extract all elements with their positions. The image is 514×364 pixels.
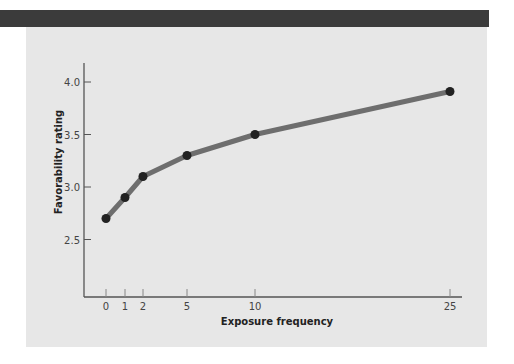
data-series xyxy=(102,87,455,223)
data-point-marker xyxy=(139,172,148,181)
x-tick-label: 10 xyxy=(249,301,262,312)
data-point-marker xyxy=(446,87,455,96)
x-tick-label: 25 xyxy=(444,301,457,312)
data-point-marker xyxy=(183,151,192,160)
x-tick-label: 5 xyxy=(184,301,190,312)
x-tick-label: 0 xyxy=(103,301,109,312)
series-line xyxy=(106,91,450,218)
y-tick-label: 4.0 xyxy=(64,77,80,88)
data-point-marker xyxy=(251,130,260,139)
data-point-marker xyxy=(121,193,130,202)
data-point-marker xyxy=(102,214,111,223)
x-tick-label: 2 xyxy=(140,301,146,312)
y-axis-title: Favorability rating xyxy=(53,110,64,214)
x-axis-title: Exposure frequency xyxy=(221,316,334,327)
y-tick-label: 2.5 xyxy=(64,235,80,246)
line-chart: 2.53.03.54.0 01251025 Favorability ratin… xyxy=(0,0,514,364)
y-axis-ticks: 2.53.03.54.0 xyxy=(64,77,91,246)
y-tick-label: 3.5 xyxy=(64,130,80,141)
x-tick-label: 1 xyxy=(122,301,128,312)
y-tick-label: 3.0 xyxy=(64,182,80,193)
x-axis-ticks: 01251025 xyxy=(103,289,457,312)
